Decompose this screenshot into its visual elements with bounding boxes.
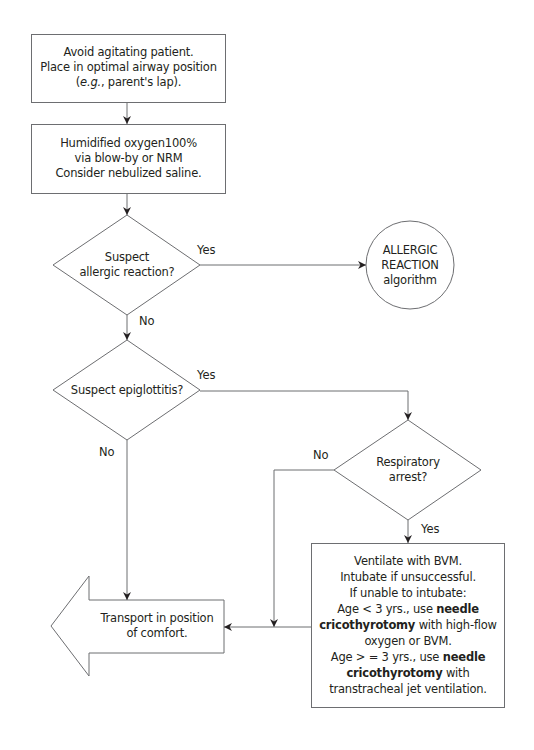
text-line: algorithm <box>366 273 454 288</box>
text-line: cricothyrotomy with <box>311 665 505 681</box>
text-line: Place in optimal airway position <box>31 60 226 75</box>
text-line: arrest? <box>350 470 466 485</box>
box-humidified-oxygen-text: Humidified oxygen100% via blow-by or NRM… <box>31 136 226 181</box>
text-fragment-italic: e.g. <box>80 75 101 89</box>
text-line: Consider nebulized saline. <box>31 166 226 181</box>
text-fragment: Age < 3 yrs., use <box>337 602 436 616</box>
text-line: transtracheal jet ventilation. <box>311 681 505 697</box>
text-line: Ventilate with BVM. <box>311 553 505 569</box>
text-line: Age < 3 yrs., use needle <box>311 601 505 617</box>
text-fragment: , parent's lap). <box>101 75 181 89</box>
label-allergic-no: No <box>139 314 155 328</box>
text-line: of comfort. <box>90 626 224 641</box>
box-avoid-agitating-text: Avoid agitating patient. Place in optima… <box>31 45 226 90</box>
text-line: ALLERGIC <box>366 243 454 258</box>
diamond-respiratory-arrest-text: Respiratory arrest? <box>350 455 466 485</box>
diamond-allergic-reaction-text: Suspect allergic reaction? <box>60 250 194 280</box>
label-respiratory-yes: Yes <box>421 522 440 536</box>
text-line: If unable to intubate: <box>311 585 505 601</box>
text-line: Avoid agitating patient. <box>31 45 226 60</box>
text-line: allergic reaction? <box>60 265 194 280</box>
text-fragment-bold: needle <box>443 650 486 664</box>
text-fragment: with high-flow <box>415 618 497 632</box>
label-epiglottitis-no: No <box>99 445 115 459</box>
text-fragment: Age > = 3 yrs., use <box>331 650 443 664</box>
text-line: Age > = 3 yrs., use needle <box>311 649 505 665</box>
text-line: cricothyrotomy with high-flow <box>311 617 505 633</box>
text-line: (e.g., parent's lap). <box>31 75 226 90</box>
box-ventilate-text: Ventilate with BVM. Intubate if unsucces… <box>311 553 505 697</box>
arrow-transport-text: Transport in position of comfort. <box>90 611 224 641</box>
circle-allergic-algorithm-text: ALLERGIC REACTION algorithm <box>366 243 454 288</box>
text-line: oxygen or BVM. <box>311 633 505 649</box>
text-line: Suspect <box>60 250 194 265</box>
text-line: REACTION <box>366 258 454 273</box>
label-epiglottitis-yes: Yes <box>197 368 216 382</box>
text-line: Respiratory <box>350 455 466 470</box>
text-fragment: with <box>442 666 469 680</box>
text-line: Suspect epiglottitis? <box>60 383 194 398</box>
diamond-epiglottitis-text: Suspect epiglottitis? <box>60 383 194 398</box>
label-allergic-yes: Yes <box>197 243 216 257</box>
text-line: via blow-by or NRM <box>31 151 226 166</box>
connector-epiglottitis-yes <box>200 391 408 420</box>
label-respiratory-no: No <box>313 448 329 462</box>
text-line: Transport in position <box>90 611 224 626</box>
text-fragment-bold: needle <box>436 602 479 616</box>
text-line: Humidified oxygen100% <box>31 136 226 151</box>
text-line: Intubate if unsuccessful. <box>311 569 505 585</box>
text-fragment-bold: cricothyrotomy <box>319 618 415 632</box>
text-fragment-bold: cricothyrotomy <box>346 666 442 680</box>
